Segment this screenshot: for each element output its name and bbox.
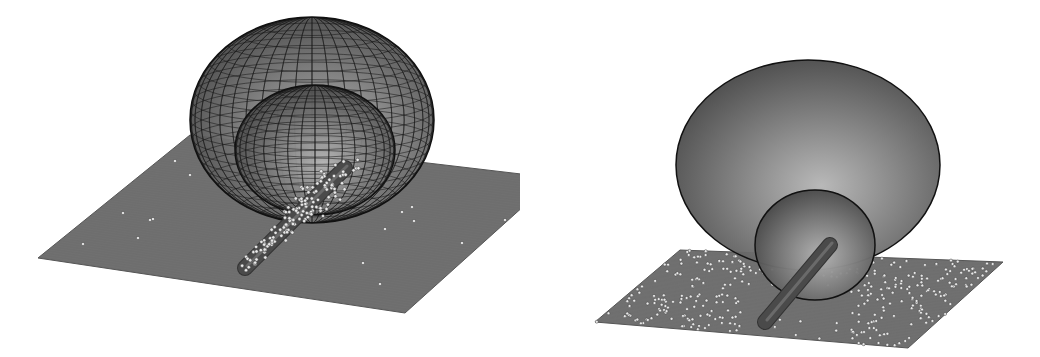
left-wireframe-render	[0, 0, 520, 357]
right-simulation-panel	[520, 0, 1040, 357]
left-simulation-panel	[0, 0, 520, 357]
inner-dome	[755, 190, 875, 300]
right-wireframe-render	[520, 0, 1040, 357]
